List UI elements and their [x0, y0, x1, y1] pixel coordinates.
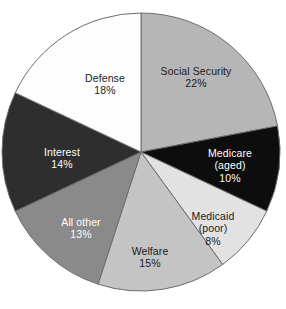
pie-chart-figure: Social Security22%Medicare(aged)10%Medic… — [0, 0, 286, 309]
pie-chart-svg — [0, 0, 286, 309]
